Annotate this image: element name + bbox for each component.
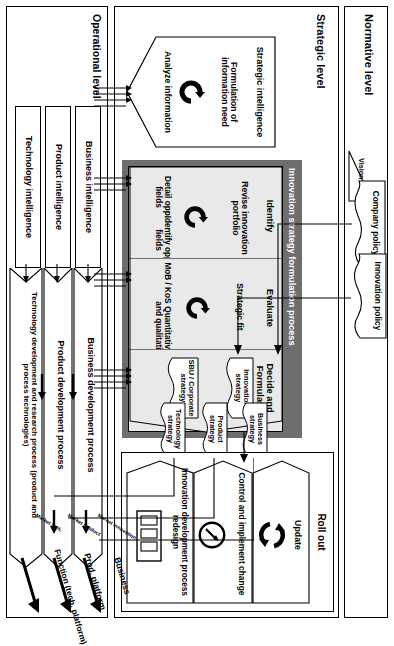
- strategic-level-label: Strategic level: [314, 14, 326, 134]
- normative-level-label: Normative level: [362, 14, 374, 134]
- strategic-intelligence-title: Strategic intelligence: [254, 40, 264, 144]
- rollout-update-label: Update: [293, 470, 303, 600]
- recycle-loop-icon: [258, 520, 286, 550]
- technology-intelligence-label: Technology intelligence: [23, 108, 33, 266]
- company-policy-label: Company policy: [371, 182, 380, 264]
- business-intelligence-label: Business intelligence: [83, 108, 93, 266]
- strategy-to-process-connectors: [54, 400, 254, 600]
- product-intelligence-label: Product intelligence: [53, 108, 63, 266]
- innovation-policy-label: Innovation policy: [373, 255, 382, 337]
- rollout-title: Roll out: [315, 456, 326, 608]
- intel-to-lane-connectors: [8, 264, 104, 294]
